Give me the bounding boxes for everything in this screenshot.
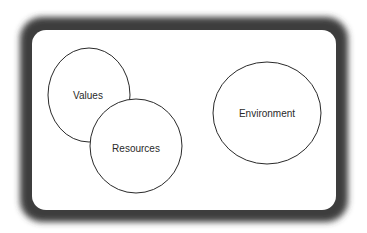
values-label: Values	[73, 90, 103, 101]
environment-label: Environment	[239, 108, 295, 119]
resources-label: Resources	[112, 143, 160, 154]
diagram-canvas: Values Resources Environment	[0, 0, 367, 233]
